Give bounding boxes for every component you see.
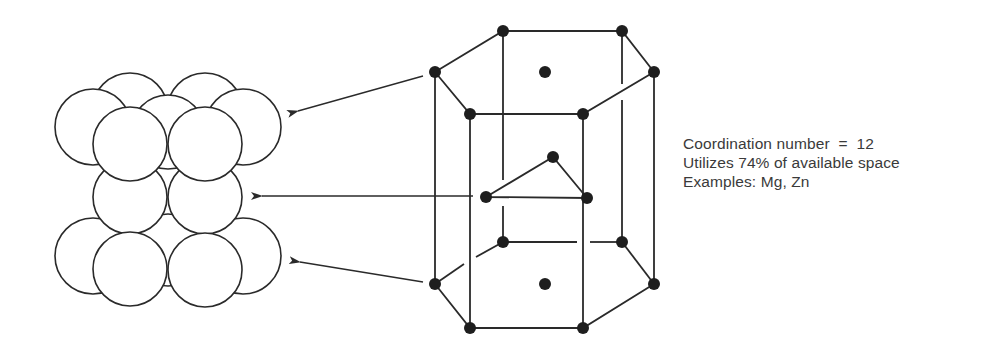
top-sphere-layer [55,73,281,181]
atom-center-top [539,66,551,78]
atom [581,192,593,204]
atom [648,66,660,78]
atom [497,236,509,248]
bottom-hexagon-front [435,284,654,328]
coordination-number-text: Coordination number = 12 [683,134,900,153]
atom [616,236,628,248]
sphere [168,107,242,181]
examples-text: Examples: Mg, Zn [683,172,900,191]
sphere-stack [55,73,281,307]
atom [429,66,441,78]
sphere [93,107,167,181]
edge-bottom-back-right [622,242,654,284]
arrow-bottom [300,262,423,282]
space-utilization-text: Utilizes 74% of available space [683,153,900,172]
atom [616,25,628,37]
sphere [93,232,167,306]
caption: Coordination number = 12 Utilizes 74% of… [683,134,900,191]
arrow-top [298,76,423,111]
arrows [262,76,473,282]
atom [464,108,476,120]
atom [577,108,589,120]
bottom-sphere-layer [55,214,281,294]
atoms [429,25,660,334]
atom [480,191,492,203]
sphere [168,233,242,307]
atom-center-bottom [539,278,551,290]
atom [648,278,660,290]
atom [429,278,441,290]
atom [577,322,589,334]
atom [497,25,509,37]
atom [547,151,559,163]
middle-triangle [486,157,587,198]
atom [464,322,476,334]
